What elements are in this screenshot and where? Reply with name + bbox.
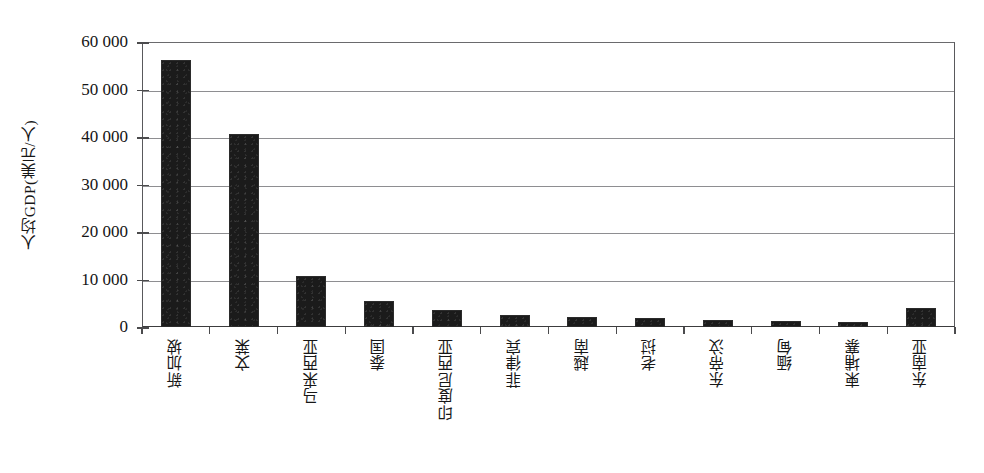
x-axis-tick (141, 327, 142, 334)
y-axis-tick-label: 40 000 (81, 127, 128, 147)
x-axis-tick (751, 327, 752, 334)
x-axis-category-label: 印度尼西亚 (434, 338, 460, 421)
x-axis-tick (616, 327, 617, 334)
x-axis-tick (277, 327, 278, 334)
x-axis-category-label-text: 老挝 (642, 338, 658, 371)
x-axis-category-label-text: 文莱 (236, 338, 252, 371)
bar (703, 320, 733, 327)
y-axis-tick-label: 10 000 (81, 270, 128, 290)
x-axis-category-label-text: 印度尼西亚 (439, 338, 455, 421)
x-axis-category-label-text: 柬埔寨 (846, 338, 862, 388)
x-axis-category-label-text: 菲律宾 (507, 338, 523, 388)
x-axis-tick (345, 327, 346, 334)
bars-layer (142, 42, 955, 327)
x-axis-category-label-text: 越南 (575, 338, 591, 371)
bar (500, 315, 530, 327)
x-axis-category-label-text: 缅甸 (778, 338, 794, 371)
x-axis-category-label: 缅甸 (773, 338, 799, 371)
x-axis-tick (209, 327, 210, 334)
bar (161, 60, 191, 327)
bar (229, 134, 259, 327)
y-axis-tick-label: 60 000 (81, 32, 128, 52)
x-axis-category-label: 越南 (569, 338, 595, 371)
x-axis-ticks (142, 327, 955, 337)
y-axis-tick-labels: 010 00020 00030 00040 00050 00060 000 (56, 42, 134, 327)
x-axis-category-label: 马来西亚 (298, 338, 324, 404)
x-axis-category-label: 柬埔寨 (840, 338, 866, 388)
x-axis-category-label: 东帝汶 (705, 338, 731, 388)
y-axis-tick-label: 50 000 (81, 80, 128, 100)
y-axis-title-text: 人均GDP(美元/人) (19, 120, 41, 250)
x-axis-category-label-text: 泰国 (371, 338, 387, 371)
x-axis-tick (819, 327, 820, 334)
y-axis-tick-label: 20 000 (81, 222, 128, 242)
x-axis-category-label: 菲律宾 (502, 338, 528, 388)
x-axis-category-label: 泰国 (366, 338, 392, 371)
x-axis-tick (954, 327, 955, 334)
y-axis-tick-label: 30 000 (81, 175, 128, 195)
x-axis-category-label: 新加坡 (163, 338, 189, 388)
bar (296, 276, 326, 327)
x-axis-category-label: 老挝 (637, 338, 663, 371)
x-axis-tick-labels: 新加坡文莱马来西亚泰国印度尼西亚菲律宾越南老挝东帝汶缅甸柬埔寨东南亚 (142, 338, 955, 473)
x-axis-category-label-text: 新加坡 (168, 338, 184, 388)
x-axis-tick (480, 327, 481, 334)
x-axis-tick (548, 327, 549, 334)
chart-page: 人均GDP(美元/人) 010 00020 00030 00040 00050 … (0, 0, 984, 473)
bar (567, 317, 597, 327)
x-axis-tick (683, 327, 684, 334)
x-axis-category-label-text: 东南亚 (913, 338, 929, 388)
x-axis-tick (887, 327, 888, 334)
bar (635, 318, 665, 327)
x-axis-category-label-text: 东帝汶 (710, 338, 726, 388)
bar (432, 310, 462, 327)
x-axis-category-label: 文莱 (231, 338, 257, 371)
x-axis-tick (412, 327, 413, 334)
bar (364, 301, 394, 327)
bar (906, 308, 936, 327)
y-axis-tick-label: 0 (120, 317, 129, 337)
x-axis-category-label-text: 马来西亚 (304, 338, 320, 404)
y-axis-title: 人均GDP(美元/人) (0, 0, 60, 370)
x-axis-category-label: 东南亚 (908, 338, 934, 388)
